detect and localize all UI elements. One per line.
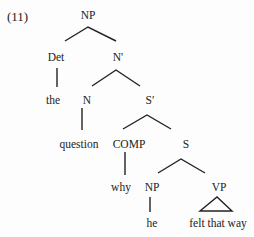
node-s: S <box>183 139 189 151</box>
leaf-he: he <box>147 218 158 230</box>
vp-triangle-icon <box>200 197 232 211</box>
leaf-felt-that-way: felt that way <box>189 218 246 230</box>
node-det: Det <box>48 52 65 64</box>
node-n: N <box>83 95 91 107</box>
s-bar-branches <box>123 115 171 129</box>
leaf-why: why <box>111 182 131 194</box>
np-root-branches <box>65 27 116 41</box>
node-np-sub: NP <box>145 182 160 194</box>
node-vp: VP <box>212 182 227 194</box>
leaf-question: question <box>60 139 99 151</box>
node-comp: COMP <box>113 139 146 151</box>
n-bar-branches <box>92 70 140 86</box>
syntax-tree-diagram: (11) NP Det N' the N S′ question COMP S … <box>0 0 254 237</box>
node-np-root: NP <box>81 10 96 22</box>
example-number: (11) <box>7 10 28 23</box>
s-branches <box>158 159 205 173</box>
node-s-bar: S′ <box>146 95 155 107</box>
tree-branches <box>0 0 254 237</box>
leaf-the: the <box>46 95 60 107</box>
node-n-bar: N' <box>113 52 123 64</box>
